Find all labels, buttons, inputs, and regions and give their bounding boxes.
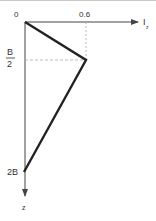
diagram-frame: 0 0.6 I z B 2 2B z xyxy=(0,0,156,221)
influence-factor-diagram: 0 0.6 I z B 2 2B z xyxy=(0,0,156,221)
half-b-numerator: B xyxy=(7,47,13,57)
horizontal-axis-subscript: z xyxy=(146,24,149,30)
origin-label: 0 xyxy=(14,10,19,19)
two-b-label: 2B xyxy=(7,167,18,177)
half-b-denominator: 2 xyxy=(7,59,12,69)
influence-profile-line xyxy=(24,22,86,172)
vertical-axis-label: z xyxy=(22,204,26,211)
peak-value-label: 0.6 xyxy=(79,10,91,19)
